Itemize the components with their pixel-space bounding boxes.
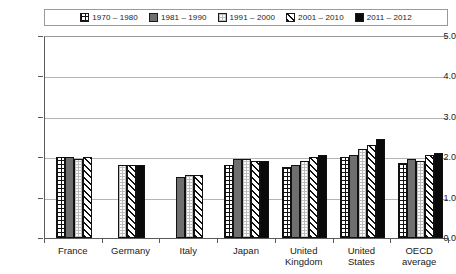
- bar: [398, 163, 407, 238]
- x-axis-label-line: OECD: [390, 245, 448, 256]
- y-axis-tick-label: 5.0: [418, 31, 456, 41]
- bar-group: [45, 36, 103, 238]
- legend-item-label: 1970 – 1980: [92, 13, 138, 22]
- bar: [251, 161, 260, 238]
- legend-swatch-diag-icon: [286, 13, 295, 22]
- x-axis-tick-mark: [102, 238, 103, 243]
- bar: [300, 161, 309, 238]
- bar: [56, 157, 65, 238]
- legend-swatch-gray-icon: [149, 13, 158, 22]
- legend-swatch-black-icon: [355, 13, 364, 22]
- x-axis-label-line: Japan: [217, 245, 275, 256]
- x-axis-label-line: United: [275, 245, 333, 256]
- y-axis-tick-label: 4.0: [418, 71, 456, 81]
- bar: [282, 167, 291, 238]
- y-axis-tick-mark: [38, 198, 43, 199]
- legend-item-label: 2001 – 2010: [298, 13, 344, 22]
- x-axis-label: OECDaverage: [390, 245, 448, 267]
- bar: [127, 165, 136, 238]
- x-axis-tick-mark: [44, 238, 45, 243]
- x-axis-label: Italy: [159, 245, 217, 256]
- x-axis-label-line: United: [333, 245, 391, 256]
- y-axis-tick-label: 0.0: [418, 233, 456, 243]
- x-axis-label-line: States: [333, 256, 391, 267]
- x-axis-tick-mark: [390, 238, 391, 243]
- legend-item: 2001 – 2010: [286, 13, 344, 22]
- legend-item-label: 1991 – 2000: [230, 13, 276, 22]
- bar: [233, 159, 242, 238]
- bar-group: [334, 36, 392, 238]
- y-axis-tick-label: 2.0: [418, 152, 456, 162]
- x-axis-label-line: average: [390, 256, 448, 267]
- bar: [65, 157, 74, 238]
- y-axis-tick-mark: [38, 157, 43, 158]
- x-axis-label-line: Italy: [159, 245, 217, 256]
- legend-item: 1991 – 2000: [218, 13, 276, 22]
- bar-group: [160, 36, 218, 238]
- bar: [291, 165, 300, 238]
- x-axis-tick-mark: [275, 238, 276, 243]
- x-axis-tick-mark: [333, 238, 334, 243]
- x-axis-label: UnitedKingdom: [275, 245, 333, 267]
- y-axis-tick-mark: [38, 117, 43, 118]
- bar: [242, 159, 251, 238]
- bar: [194, 175, 203, 238]
- bar: [358, 149, 367, 238]
- x-axis-label: Germany: [102, 245, 160, 256]
- bar: [118, 165, 127, 238]
- bar-group: [218, 36, 276, 238]
- legend-swatch-dot-icon: [218, 13, 227, 22]
- x-axis-tick-mark: [159, 238, 160, 243]
- y-axis-tick-mark: [38, 238, 43, 239]
- bar: [309, 157, 318, 238]
- x-axis-tick-mark: [448, 238, 449, 243]
- chart-legend: 1970 – 19801981 – 19901991 – 20002001 – …: [44, 9, 448, 26]
- bar-group: [391, 36, 449, 238]
- bar: [224, 165, 233, 238]
- bar: [376, 139, 385, 238]
- y-axis-tick-label: 1.0: [418, 193, 456, 203]
- legend-item-label: 1981 – 1990: [161, 13, 207, 22]
- x-axis-label-line: Germany: [102, 245, 160, 256]
- bar: [367, 145, 376, 238]
- bar: [74, 159, 83, 238]
- legend-swatch-grid-icon: [80, 13, 89, 22]
- bar-group: [276, 36, 334, 238]
- bar: [185, 175, 194, 238]
- bar: [83, 157, 92, 238]
- x-axis-tick-mark: [217, 238, 218, 243]
- legend-item-label: 2011 – 2012: [367, 13, 412, 22]
- bar: [349, 155, 358, 238]
- x-axis-line: [44, 238, 448, 239]
- plot-area: [44, 36, 448, 238]
- legend-item: 1970 – 1980: [80, 13, 138, 22]
- bar-group: [103, 36, 161, 238]
- bar: [260, 161, 269, 238]
- x-axis-label: UnitedStates: [333, 245, 391, 267]
- bar: [407, 159, 416, 238]
- legend-item: 1981 – 1990: [149, 13, 207, 22]
- x-axis-label: France: [44, 245, 102, 256]
- bar: [136, 165, 145, 238]
- y-axis-tick-mark: [38, 76, 43, 77]
- bar: [318, 155, 327, 238]
- x-axis-label-line: Kingdom: [275, 256, 333, 267]
- y-axis-tick-mark: [38, 36, 43, 37]
- bar: [176, 177, 185, 238]
- y-axis-tick-label: 3.0: [418, 112, 456, 122]
- x-axis-label-line: France: [44, 245, 102, 256]
- legend-item: 2011 – 2012: [355, 13, 412, 22]
- bar-chart: 1970 – 19801981 – 19901991 – 20002001 – …: [0, 0, 456, 274]
- x-axis-label: Japan: [217, 245, 275, 256]
- bar: [340, 157, 349, 238]
